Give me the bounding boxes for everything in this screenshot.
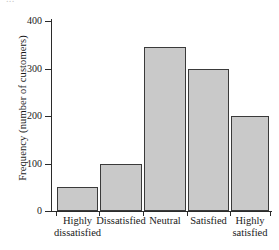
y-tick-label-400: 400: [16, 16, 42, 26]
y-tick-300: [45, 69, 52, 70]
clipped-caption-text: ...: [6, 0, 126, 5]
x-axis-line: [51, 211, 272, 212]
bar-highly-dissatisfied: [57, 187, 98, 211]
y-axis-title: Frequency (number of customers): [16, 8, 30, 208]
y-tick-label-200-wrap: 200: [14, 111, 42, 121]
y-tick-100: [45, 164, 52, 165]
y-tick-label-300: 300: [16, 64, 42, 74]
y-tick-400: [45, 21, 52, 22]
y-tick-label-400-wrap: 400: [14, 16, 42, 26]
bar-dissatisfied: [100, 164, 142, 212]
y-tick-label-100: 100: [16, 159, 42, 169]
bar-highly-satisfied: [231, 116, 269, 211]
y-tick-200: [45, 116, 52, 117]
y-tick-label-300-wrap: 300: [14, 64, 42, 74]
y-tick-label-100-wrap: 100: [14, 159, 42, 169]
y-tick-label-0: 0: [16, 206, 42, 216]
bar-chart-figure: ... Frequency (number of customers) 400 …: [0, 0, 279, 250]
bar-neutral: [144, 47, 186, 211]
bar-satisfied: [188, 69, 229, 212]
y-tick-label-0-wrap: 0: [14, 206, 42, 216]
y-tick-0: [45, 211, 52, 212]
x-label-highly-satisfied: Highly satisfied: [222, 215, 278, 239]
y-tick-label-200: 200: [16, 111, 42, 121]
